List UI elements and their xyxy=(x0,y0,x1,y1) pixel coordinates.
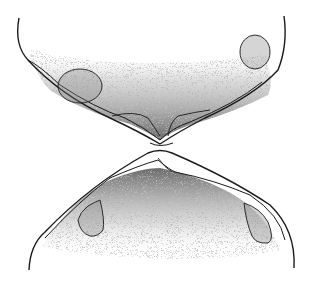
lower-valve xyxy=(29,151,294,271)
upper-valve xyxy=(18,16,285,144)
illustration xyxy=(0,0,311,288)
muscle-scar-upper-right xyxy=(240,35,270,69)
shell-drawing xyxy=(0,0,311,288)
muscle-scar-upper-left xyxy=(58,69,102,103)
lower-stipple-dots xyxy=(42,168,280,259)
